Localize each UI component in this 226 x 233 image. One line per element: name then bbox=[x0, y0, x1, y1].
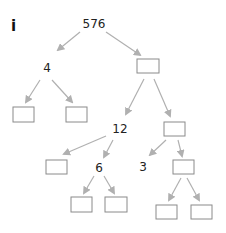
empty-box-right-level2[interactable] bbox=[164, 122, 185, 136]
edge-level3-right bbox=[187, 178, 199, 200]
empty-box-6-left[interactable] bbox=[71, 197, 92, 212]
edge-6-right bbox=[104, 176, 114, 193]
node-12: 12 bbox=[112, 122, 127, 136]
node-6: 6 bbox=[95, 161, 103, 175]
factor-tree-diagram: i 576 4 12 6 3 bbox=[0, 0, 226, 233]
empty-box-6-right[interactable] bbox=[105, 197, 127, 212]
edge-to-box-level3 bbox=[178, 140, 182, 156]
edge-4-right bbox=[52, 80, 72, 102]
node-3: 3 bbox=[139, 160, 147, 174]
edge-level3-left bbox=[169, 178, 181, 200]
edge-root-to-right bbox=[106, 32, 140, 55]
empty-box-level4-left[interactable] bbox=[156, 205, 177, 219]
edge-12-left bbox=[64, 136, 106, 154]
edge-12-to-6 bbox=[104, 140, 113, 157]
empty-box-right-level3[interactable] bbox=[173, 160, 194, 174]
empty-box-12-left[interactable] bbox=[46, 160, 67, 174]
edge-root-to-4 bbox=[58, 32, 80, 50]
part-label: i bbox=[11, 17, 16, 35]
edge-4-left bbox=[26, 80, 40, 102]
edge-to-3 bbox=[150, 140, 166, 155]
edge-right-to-12 bbox=[126, 79, 144, 114]
empty-box-root-right[interactable] bbox=[137, 59, 159, 73]
edge-right-to-box bbox=[154, 79, 170, 116]
node-4: 4 bbox=[43, 61, 51, 75]
empty-box-level4-right[interactable] bbox=[191, 205, 212, 219]
edge-6-left bbox=[84, 176, 94, 193]
empty-box-4-left[interactable] bbox=[13, 107, 34, 122]
node-root-576: 576 bbox=[83, 17, 106, 31]
empty-box-4-right[interactable] bbox=[66, 107, 87, 122]
